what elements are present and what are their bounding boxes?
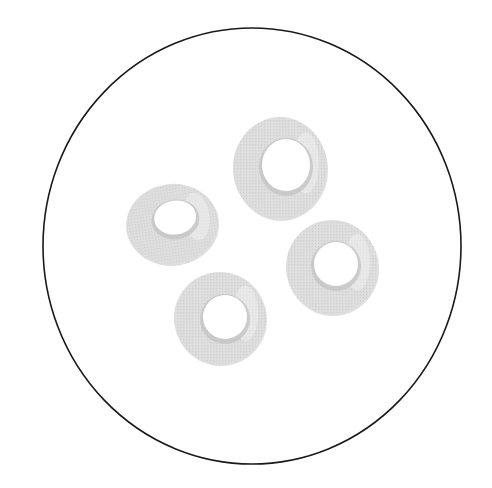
cell-top [233, 117, 328, 221]
cell-right [286, 220, 379, 316]
cell-center-hole [314, 242, 358, 286]
microscope-illustration [0, 0, 492, 488]
cell-center-hole [262, 139, 310, 191]
cell-bottom [174, 272, 267, 366]
microscope-field-of-view [43, 28, 461, 464]
cell-center-hole [203, 295, 247, 339]
